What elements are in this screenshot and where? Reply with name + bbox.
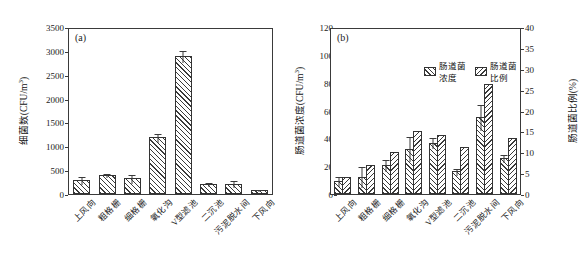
error-bar-cap xyxy=(256,190,263,191)
bar-group xyxy=(355,29,379,194)
bar-group xyxy=(145,29,170,194)
error-bar xyxy=(480,105,481,131)
panel-b-plot-area: (b) 肠道菌浓度 肠道菌比例 xyxy=(330,28,521,195)
error-bar xyxy=(132,175,133,184)
bar xyxy=(124,178,141,194)
bar-series-proportion xyxy=(366,165,375,194)
error-bar-cap xyxy=(383,160,390,161)
bar-series-proportion xyxy=(413,131,422,194)
error-bar-cap xyxy=(129,175,136,176)
error-bar-cap xyxy=(104,174,111,175)
x-tick-label: 下风向 xyxy=(498,196,526,224)
error-bar xyxy=(504,155,505,163)
error-bar xyxy=(233,181,234,188)
error-bar xyxy=(362,167,363,188)
error-bar xyxy=(338,177,339,187)
error-bar-cap xyxy=(335,177,342,178)
bar xyxy=(200,184,217,194)
bar-group xyxy=(402,29,426,194)
y-tick-label: 0 xyxy=(60,191,65,200)
y-tick-label: 2000 xyxy=(46,95,64,104)
error-bar-cap xyxy=(230,181,237,182)
bar-group xyxy=(247,29,272,194)
bar-series-proportion xyxy=(342,177,351,194)
y-tick-label: 35 xyxy=(525,44,534,53)
bar xyxy=(225,184,242,194)
y-tick-label: 1000 xyxy=(46,143,64,152)
bar-series-proportion xyxy=(508,138,517,194)
bar-series-proportion xyxy=(484,84,493,194)
panel-a-y-axis-title: 细菌数(CFU/m3) xyxy=(16,56,30,166)
bar xyxy=(175,56,192,194)
bar-group xyxy=(426,29,450,194)
y-tick-label: 3500 xyxy=(46,24,64,33)
error-bar xyxy=(183,51,184,62)
x-tick-label: 细格栅 xyxy=(379,196,407,224)
panel-a-y-axis-title-text: 细菌数(CFU/m xyxy=(19,84,29,146)
panel-a-plot-area: (a) xyxy=(68,28,273,195)
error-bar-cap xyxy=(205,183,212,184)
panel-b-y-axis-title-right: 肠道菌比例(%) xyxy=(565,52,579,170)
x-tick-label: 粗格栅 xyxy=(95,196,123,224)
y-tick-mark xyxy=(521,49,524,50)
panel-b-bar-series xyxy=(331,29,520,194)
bar xyxy=(251,190,268,194)
bar-group xyxy=(331,29,355,194)
x-tick-label: 上风向 xyxy=(70,196,98,224)
panel-a: 细菌数(CFU/m3) 3500300025002000150010005000… xyxy=(0,0,291,256)
error-bar-cap xyxy=(154,134,161,135)
y-tick-label: 500 xyxy=(51,167,65,176)
panel-a-y-axis-title-tail: ) xyxy=(19,77,29,80)
y-tick-mark xyxy=(521,174,524,175)
bar-group xyxy=(120,29,145,194)
bar-group xyxy=(449,29,473,194)
error-bar xyxy=(409,137,410,162)
error-bar-cap xyxy=(78,177,85,178)
x-tick-label: V型滤池 xyxy=(168,196,200,228)
bar-group xyxy=(94,29,119,194)
bar xyxy=(149,137,166,194)
bar-series-proportion xyxy=(390,152,399,194)
error-bar xyxy=(433,138,434,149)
error-bar-cap xyxy=(406,137,413,138)
panel-a-x-tick-labels: 上风向粗格栅细格栅氧化沟V型滤池二沉池污泥脱水间下风向 xyxy=(68,196,273,256)
y-tick-label: 15 xyxy=(525,128,534,137)
error-bar-cap xyxy=(501,155,508,156)
y-tick-label: 1500 xyxy=(46,119,64,128)
bar-series-proportion xyxy=(437,135,446,194)
error-bar xyxy=(386,160,387,173)
panel-a-bar-series xyxy=(69,29,272,194)
error-bar-cap xyxy=(477,105,484,106)
error-bar-cap xyxy=(180,51,187,52)
bar-group xyxy=(221,29,246,194)
bar-group xyxy=(378,29,402,194)
panel-b-y-tick-labels-right: 4035302520151050 xyxy=(525,28,547,195)
y-tick-mark xyxy=(521,153,524,154)
y-tick-label: 0 xyxy=(525,191,530,200)
bar-group xyxy=(196,29,221,194)
y-tick-mark xyxy=(521,70,524,71)
y-tick-label: 5 xyxy=(525,170,530,179)
x-tick-label: 粗格栅 xyxy=(355,196,383,224)
bar xyxy=(73,180,90,194)
panel-a-y-tick-labels: 3500300025002000150010005000 xyxy=(30,28,64,195)
y-tick-label: 20 xyxy=(525,107,534,116)
bar xyxy=(99,175,116,194)
y-tick-label: 2500 xyxy=(46,71,64,80)
bar-group xyxy=(496,29,520,194)
y-tick-mark xyxy=(521,132,524,133)
y-tick-mark xyxy=(521,91,524,92)
error-bar xyxy=(81,177,82,185)
y-tick-mark xyxy=(521,28,524,29)
x-tick-label: 下风向 xyxy=(249,196,277,224)
bar-series-proportion xyxy=(460,147,469,194)
error-bar-cap xyxy=(430,138,437,139)
y-tick-label: 40 xyxy=(525,24,534,33)
x-tick-label: 上风向 xyxy=(331,196,359,224)
error-bar-cap xyxy=(453,169,460,170)
x-tick-label: 细格栅 xyxy=(121,196,149,224)
error-bar-cap xyxy=(359,167,366,168)
y-tick-label: 3000 xyxy=(46,47,64,56)
bar-group xyxy=(473,29,497,194)
figure-container: 细菌数(CFU/m3) 3500300025002000150010005000… xyxy=(0,0,582,256)
